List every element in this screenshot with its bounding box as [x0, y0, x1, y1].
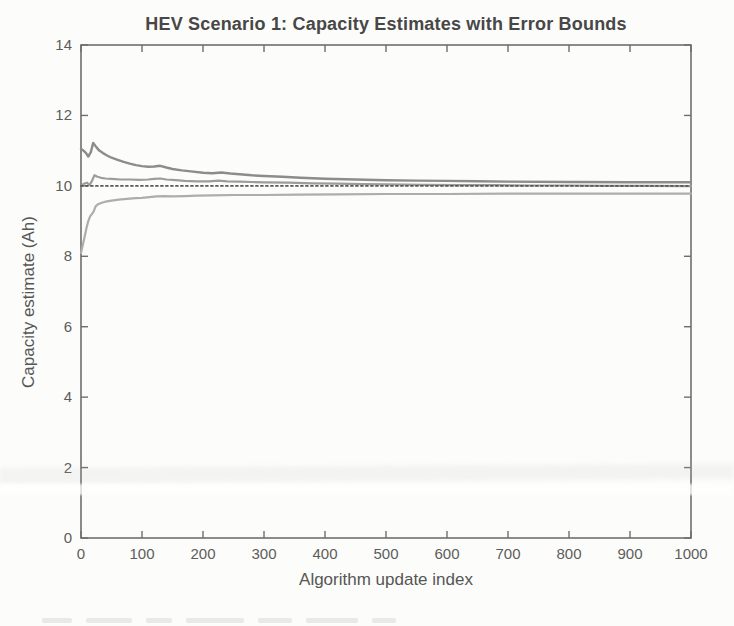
series-lower-error-bound: [81, 194, 691, 253]
y-tick-label: 8: [64, 247, 72, 264]
x-axis-label: Algorithm update index: [81, 570, 691, 590]
y-tick-label: 10: [55, 177, 72, 194]
x-tick-label: 600: [434, 545, 459, 562]
x-tick-label: 300: [251, 545, 276, 562]
series-upper-error-bound: [81, 143, 691, 182]
x-tick-label: 100: [129, 545, 154, 562]
y-tick-label: 0: [64, 529, 72, 546]
plot-area: 0100200300400500600700800900100002468101…: [0, 0, 734, 626]
x-tick-label: 700: [495, 545, 520, 562]
y-tick-label: 14: [55, 36, 72, 53]
scanned-book-page: HEV Scenario 1: Capacity Estimates with …: [0, 0, 734, 626]
axes-frame: [81, 45, 691, 538]
x-tick-label: 200: [190, 545, 215, 562]
x-tick-label: 0: [77, 545, 85, 562]
y-tick-label: 12: [55, 106, 72, 123]
x-tick-label: 500: [373, 545, 398, 562]
x-tick-label: 1000: [674, 545, 707, 562]
y-tick-label: 2: [64, 459, 72, 476]
x-tick-label: 400: [312, 545, 337, 562]
y-tick-label: 6: [64, 318, 72, 335]
x-tick-label: 800: [556, 545, 581, 562]
y-tick-label: 4: [64, 388, 72, 405]
x-tick-label: 900: [617, 545, 642, 562]
